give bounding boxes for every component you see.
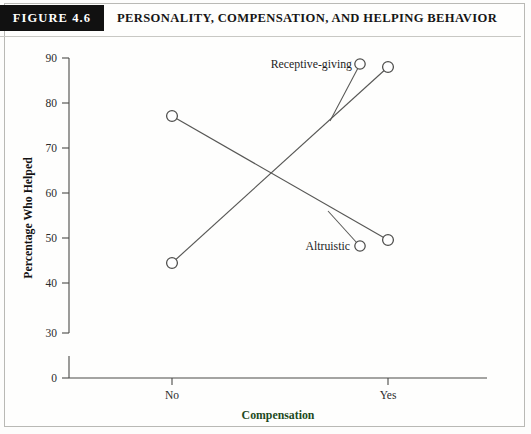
y-tick-label-70: 70 [46,142,58,154]
data-point-receptive-giving-no [167,258,178,269]
label-anchor-altruistic [355,241,365,251]
data-point-receptive-giving-yes [383,62,394,73]
y-axis-title: Percentage Who Helped [21,157,35,279]
x-axis-title: Compensation [242,408,315,422]
y-tick-label-30: 30 [46,327,58,339]
chart-area: 90 80 70 60 50 40 30 0 No Yes Compensati… [0,36,521,424]
y-tick-label-80: 80 [46,97,58,109]
y-tick-label-40: 40 [46,277,58,289]
data-point-altruistic-yes [383,235,394,246]
figure-number-badge: FIGURE 4.6 [0,5,104,31]
line-chart-svg: 90 80 70 60 50 40 30 0 No Yes Compensati… [0,36,521,424]
y-tick-label-0: 0 [51,372,57,384]
data-point-altruistic-no [167,111,178,122]
y-tick-label-50: 50 [46,232,58,244]
y-tick-label-90: 90 [46,52,58,64]
figure-page: FIGURE 4.6 PERSONALITY, COMPENSATION, AN… [0,0,531,434]
figure-header: FIGURE 4.6 PERSONALITY, COMPENSATION, AN… [0,5,521,31]
leader-line-receptive-giving [330,68,358,121]
series-line-receptive-giving [172,67,388,263]
series-label-receptive-giving: Receptive-giving [271,57,352,71]
series-line-altruistic [172,116,388,240]
figure-title: PERSONALITY, COMPENSATION, AND HELPING B… [117,5,497,31]
label-anchor-receptive-giving [355,59,365,69]
y-tick-label-60: 60 [46,187,58,199]
series-label-altruistic: Altruistic [305,239,350,253]
x-tick-label-yes: Yes [380,389,397,401]
x-tick-label-no: No [165,389,179,401]
